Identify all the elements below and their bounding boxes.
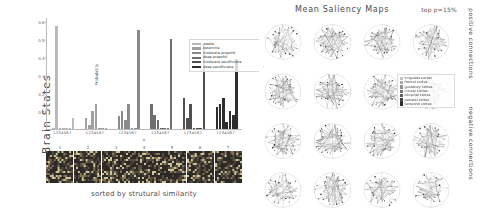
bar	[134, 128, 137, 129]
bar-group	[47, 18, 80, 129]
saliency-map	[358, 18, 406, 66]
bar	[124, 120, 127, 129]
x-tick-label: 1234567	[111, 131, 144, 135]
bar	[98, 128, 101, 129]
bar	[95, 104, 98, 129]
saliency-map	[308, 18, 356, 66]
bar-group	[145, 18, 178, 129]
bar	[137, 30, 140, 129]
saliency-maps-panel: Mean Saliency Maps top p=15% cingulate c…	[247, 0, 485, 216]
bar	[170, 39, 173, 129]
bar-chart-axes: Probability 0.10.20.30.40.50.6 awakeketa…	[46, 18, 242, 130]
bar	[118, 116, 121, 129]
bar	[160, 128, 163, 129]
matrix-index-label: 7	[214, 145, 242, 150]
region-legend-swatch	[400, 98, 403, 101]
matrix-cell	[102, 151, 129, 183]
legend-swatch	[192, 61, 201, 63]
bar	[131, 128, 134, 129]
region-legend-swatch	[400, 85, 403, 88]
matrix-index-label: 5	[158, 145, 186, 150]
bar-group	[210, 18, 243, 129]
bar	[157, 120, 160, 129]
bar	[216, 107, 219, 129]
saliency-map	[259, 117, 307, 165]
legend-swatch	[192, 66, 201, 68]
x-tick-label: 1234567	[209, 131, 242, 135]
saliency-map	[308, 67, 356, 115]
bar	[225, 122, 228, 129]
negative-connections-label: negative connections	[468, 96, 475, 192]
similarity-matrix-cells	[46, 151, 242, 183]
x-tick-label: 1234567	[144, 131, 177, 135]
y-tick-label: 0.4	[38, 55, 44, 60]
saliency-map	[308, 117, 356, 165]
bar	[196, 128, 199, 129]
brain-states-panel: Brain States Probability 0.10.20.30.40.5…	[0, 0, 247, 216]
matrix-cell	[46, 151, 73, 183]
bar	[72, 118, 75, 129]
bar	[52, 128, 55, 129]
matrix-cell	[74, 151, 101, 183]
region-legend-swatch	[400, 94, 403, 97]
y-tick-label: 0.3	[38, 73, 44, 78]
region-legend-item[interactable]: temporal cortex	[400, 102, 453, 106]
saliency-map	[358, 166, 406, 214]
matrix-index-label: 3	[102, 145, 130, 150]
legend-swatch	[192, 52, 201, 54]
x-tick-label: 1234567	[177, 131, 210, 135]
bar	[232, 115, 235, 129]
saliency-map-grid	[259, 18, 455, 210]
matrix-cell	[158, 151, 185, 183]
saliency-panel-title: Mean Saliency Maps	[295, 5, 389, 14]
matrix-cell	[215, 151, 242, 183]
bar	[229, 111, 232, 129]
bar	[69, 128, 72, 129]
matrix-cell	[187, 151, 214, 183]
bar	[163, 128, 166, 129]
bar	[85, 118, 88, 129]
matrix-index-label: 4	[130, 145, 158, 150]
bar	[167, 128, 170, 129]
region-legend-swatch	[400, 81, 403, 84]
bar	[105, 128, 108, 129]
bar	[62, 128, 65, 129]
matrix-index-label: 6	[186, 145, 214, 150]
bar	[65, 128, 68, 129]
saliency-map	[259, 166, 307, 214]
y-tick-label: 0.1	[38, 109, 44, 114]
bar	[91, 111, 94, 129]
bar	[189, 104, 192, 129]
saliency-map	[308, 166, 356, 214]
region-legend-swatch	[400, 102, 403, 105]
brain-region-legend: cingulate cortexfrontal cortexgustatory …	[397, 74, 455, 108]
bar-group	[112, 18, 145, 129]
bar	[101, 128, 104, 129]
bar	[193, 128, 196, 129]
saliency-map	[407, 18, 455, 66]
y-tick-label: 0.5	[38, 37, 44, 42]
legend-swatch	[192, 57, 201, 59]
x-tick-label: 1234567	[46, 131, 79, 135]
bar	[88, 125, 91, 129]
figure-root: Brain States Probability 0.10.20.30.40.5…	[0, 0, 485, 216]
saliency-map	[407, 117, 455, 165]
bar	[127, 104, 130, 129]
similarity-matrix-strip: 1234567	[46, 145, 242, 185]
matrix-index-label: 1	[46, 145, 74, 150]
bar	[186, 118, 189, 129]
positive-connections-label: positive connections	[468, 0, 475, 92]
bar	[153, 115, 156, 129]
bar-group	[178, 18, 211, 129]
bar-group	[80, 18, 113, 129]
bar	[183, 98, 186, 129]
y-tick-label: 0.2	[38, 91, 44, 96]
similarity-caption: sorted by strutural similarity	[46, 190, 242, 198]
x-axis-label: x	[46, 137, 242, 142]
legend-swatch	[192, 43, 201, 45]
bar	[222, 98, 225, 129]
saliency-map	[358, 117, 406, 165]
region-legend-label: temporal cortex	[405, 102, 432, 106]
matrix-index-label: 2	[74, 145, 102, 150]
bar	[55, 26, 58, 129]
